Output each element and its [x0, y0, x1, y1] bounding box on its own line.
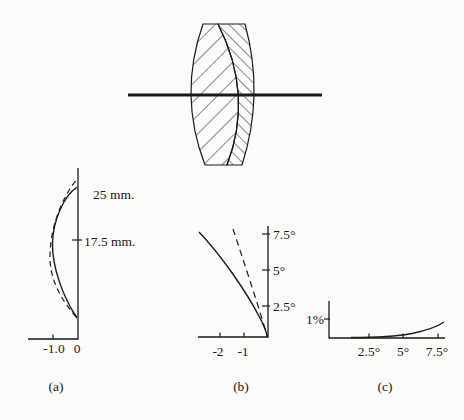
plot-c-axes	[329, 301, 445, 338]
plot-a-label-17-5mm: 17.5 mm.	[84, 234, 135, 249]
plot-b: 7.5° 5° 2.5° -2 -1 (b)	[198, 226, 295, 394]
plot-a-label-25mm: 25 mm.	[93, 187, 134, 202]
plot-a-solid-curve	[52, 187, 77, 318]
plot-b-label-7-5deg: 7.5°	[273, 227, 295, 242]
plot-a-label-neg1-0: -1.0	[43, 341, 65, 356]
plot-b-solid-curve	[199, 232, 268, 337]
plot-a-dashed-curve	[50, 181, 77, 318]
figure-svg: 25 mm. 17.5 mm. -1.0 0 (a) 7.5° 5° 2.5° …	[0, 0, 464, 420]
plot-b-label-5deg: 5°	[273, 263, 285, 278]
plot-c-label-7-5deg: 7.5°	[426, 344, 448, 359]
plot-b-label-neg1: -1	[237, 344, 248, 359]
plot-b-dashed-curve	[233, 229, 268, 337]
plot-a: 25 mm. 17.5 mm. -1.0 0 (a)	[28, 168, 135, 394]
plot-c-label-2-5deg: 2.5°	[358, 344, 380, 359]
plot-c-label-1pct: 1%	[306, 312, 324, 327]
plot-c-caption: (c)	[378, 379, 393, 394]
plot-b-caption: (b)	[233, 379, 249, 394]
plot-b-label-2-5deg: 2.5°	[273, 299, 295, 314]
cemented-doublet-lens-diagram	[128, 24, 322, 165]
plot-c: 1% 2.5° 5° 7.5° (c)	[306, 301, 448, 394]
plot-b-label-neg2: -2	[212, 344, 223, 359]
plot-a-label-zero: 0	[74, 341, 81, 356]
plot-c-label-5deg: 5°	[397, 344, 409, 359]
plot-c-solid-curve	[351, 322, 444, 338]
figure-canvas: 25 mm. 17.5 mm. -1.0 0 (a) 7.5° 5° 2.5° …	[0, 0, 464, 420]
plot-a-caption: (a)	[49, 379, 64, 394]
